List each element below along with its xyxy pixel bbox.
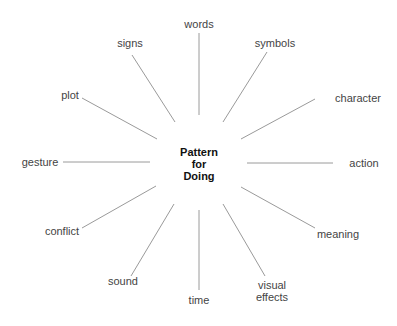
center-line-2: for [192, 158, 207, 170]
label-conflict: conflict [45, 225, 79, 237]
label-plot: plot [61, 89, 79, 101]
label-gesture: gesture [22, 156, 59, 168]
spoke-sound [131, 204, 174, 276]
center-node: Pattern for Doing [180, 146, 218, 182]
label-visual-effects-1: visual [258, 279, 286, 291]
label-action: action [349, 157, 378, 169]
spoke-meaning [241, 187, 315, 228]
label-character: character [335, 92, 381, 104]
label-signs: signs [117, 37, 143, 49]
spoke-conflict [82, 186, 156, 228]
label-time: time [189, 294, 210, 306]
spoke-visual-effects [223, 204, 265, 276]
center-line-1: Pattern [180, 146, 218, 158]
spider-diagram: Pattern for Doing words symbols characte… [0, 0, 397, 326]
label-meaning: meaning [317, 228, 359, 240]
label-visual-effects-2: effects [256, 291, 289, 303]
label-symbols: symbols [255, 37, 296, 49]
label-words: words [183, 18, 214, 30]
spoke-character [241, 99, 315, 139]
spoke-plot [82, 98, 157, 139]
spoke-symbols [223, 52, 267, 122]
spoke-signs [132, 55, 175, 122]
label-sound: sound [108, 275, 138, 287]
center-line-3: Doing [183, 170, 214, 182]
